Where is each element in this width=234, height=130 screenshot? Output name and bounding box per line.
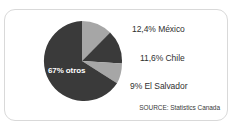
figure-title: [0, 0, 234, 1]
pie-label-mexico: 12,4% México: [132, 24, 185, 34]
pie-chart-figure: 67% otros 12,4% México 11,6% Chile 9% El…: [0, 0, 234, 130]
pie-svg: [42, 21, 122, 101]
pie-label-el-salvador: 9% El Salvador: [130, 81, 187, 91]
pie-label-chile: 11,6% Chile: [140, 53, 185, 63]
source-attribution: SOURCE: Statistics Canada: [108, 104, 220, 112]
pie-chart: 67% otros: [42, 21, 122, 101]
pie-slice-label-otros: 67% otros: [48, 66, 102, 75]
